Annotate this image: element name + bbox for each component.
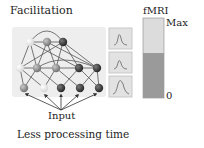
node [75, 64, 83, 72]
fmri-fill [143, 53, 164, 98]
response-panel [109, 28, 132, 49]
node [16, 64, 24, 72]
node [59, 38, 67, 46]
node [93, 64, 101, 72]
node [52, 64, 60, 72]
node [95, 84, 103, 92]
fmri-bar [143, 18, 164, 98]
network-diagram [0, 0, 204, 148]
node [57, 84, 65, 92]
node [40, 84, 48, 92]
node [33, 64, 41, 72]
node [76, 84, 84, 92]
response-panels [109, 28, 132, 97]
node [26, 38, 34, 46]
node [20, 84, 28, 92]
node [43, 38, 51, 46]
